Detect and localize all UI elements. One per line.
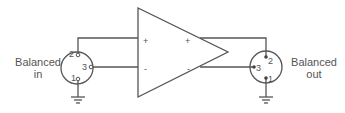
output-plus-wire <box>200 38 266 56</box>
output-pin2-label: 2 <box>268 56 273 66</box>
input-pin2-label: 2 <box>69 49 74 59</box>
input-pin3-icon <box>89 65 93 69</box>
output-pin3-label: 3 <box>256 63 261 73</box>
output-pin1-label: 1 <box>268 74 273 84</box>
output-ground-icon <box>259 97 273 103</box>
amp-output-plus-sign: + <box>185 36 190 46</box>
amp-output-minus-sign: - <box>187 64 190 74</box>
input-pin3-label: 3 <box>82 62 87 72</box>
output-label: Balanced out <box>288 56 340 80</box>
amp-input-minus-sign: - <box>144 64 147 74</box>
input-pin1-label: 1 <box>71 73 76 83</box>
amp-input-plus-sign: + <box>143 36 148 46</box>
input-ground-icon <box>71 97 85 103</box>
input-pin2-icon <box>76 53 80 57</box>
input-label-line2: in <box>13 68 63 80</box>
output-label-line2: out <box>288 68 340 80</box>
input-label-line1: Balanced <box>13 56 63 68</box>
balanced-amplifier-diagram: 2 3 1 2 3 1 + - + - Balanced in Balanced… <box>0 0 345 113</box>
output-label-line1: Balanced <box>288 56 340 68</box>
input-plus-wire <box>78 38 138 54</box>
input-pin1-icon <box>76 77 80 81</box>
amplifier-triangle-icon <box>138 8 228 97</box>
input-label: Balanced in <box>13 56 63 80</box>
